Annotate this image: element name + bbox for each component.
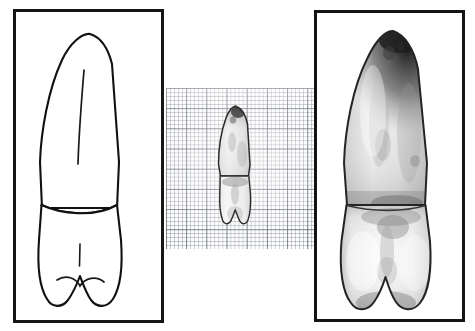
tooth-photograph-small bbox=[202, 102, 268, 232]
figure-root bbox=[0, 0, 475, 331]
tooth-photograph-small-svg bbox=[202, 102, 268, 232]
tooth-crown-small bbox=[202, 172, 268, 232]
tooth-line-drawing bbox=[16, 12, 161, 320]
tooth-root-large bbox=[317, 13, 462, 213]
photograph-stage bbox=[317, 13, 462, 319]
crown-groove-line bbox=[80, 244, 81, 266]
tooth-root-small bbox=[202, 102, 268, 182]
tooth-crown-large bbox=[317, 198, 462, 319]
line-drawing-panel bbox=[13, 9, 164, 323]
graph-paper-panel bbox=[166, 88, 316, 249]
photograph-panel bbox=[314, 10, 465, 322]
tooth-photograph-large bbox=[317, 13, 462, 319]
